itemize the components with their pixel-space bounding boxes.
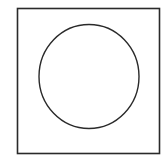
diagram-canvas <box>0 0 168 161</box>
inner-circle <box>39 25 139 129</box>
